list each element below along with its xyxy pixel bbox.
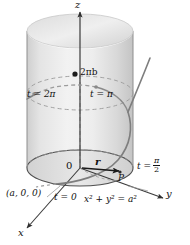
t-0-label: t = 0 <box>54 193 77 202</box>
point-P-label: P <box>118 174 124 183</box>
helix-cylinder-figure: z x y 2πb t = 2π t = π t = π 2 t = 0 (a,… <box>0 0 190 245</box>
origin-label: 0 <box>66 161 72 171</box>
cylinder-equation-label: x² + y² = a² <box>84 195 137 204</box>
height-2pib-label: 2πb <box>80 68 97 77</box>
point-a-label: (a, 0, 0) <box>6 189 41 198</box>
helix-tail-dashed <box>36 184 56 187</box>
z-axis-label: z <box>75 0 80 10</box>
vector-r-label: r <box>95 157 100 167</box>
t-half-pi-denominator: 2 <box>153 166 160 174</box>
figure-graphics <box>0 0 190 245</box>
x-axis-label: x <box>18 228 24 238</box>
t-half-pi-label: t = π 2 <box>137 158 160 176</box>
t-pi-label: t = π <box>90 90 113 99</box>
y-axis-label: y <box>166 189 172 199</box>
height-marker-dot <box>72 71 77 76</box>
t-2pi-label: t = 2π <box>27 90 56 99</box>
leader-equation <box>128 186 148 191</box>
t-half-pi-prefix: t = <box>137 162 151 171</box>
t-half-pi-fraction: π 2 <box>153 157 160 175</box>
